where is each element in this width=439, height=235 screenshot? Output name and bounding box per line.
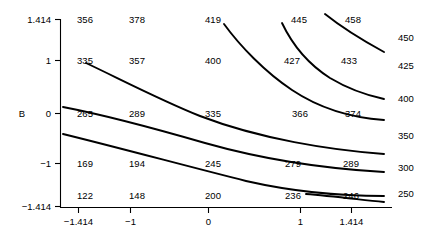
value-r1c2: 400 (205, 55, 221, 66)
contour-level-label-450: 450 (398, 32, 414, 43)
value-r2c3: 366 (292, 108, 308, 119)
value-r1c0: 335 (77, 55, 93, 66)
value-r4c1: 148 (129, 190, 145, 201)
x-tick-label-1: 1 (298, 216, 303, 227)
y-tick-label-1.414: 1.414 (27, 14, 51, 25)
value-r0c1: 378 (129, 14, 145, 25)
x-tick-label-0: 0 (206, 216, 211, 227)
y-tick-label-0: 0 (46, 108, 51, 119)
x-tick-labels: −1.414 −1 0 1 1.414 (64, 216, 364, 227)
contour-level-label-425: 425 (398, 60, 414, 71)
value-r3c3: 279 (285, 158, 301, 169)
contour-level-label-350: 350 (398, 130, 414, 141)
x-tick-label-minus-1.414: −1.414 (64, 216, 93, 227)
contour-plot-canvas: 1.414 1 0 −1 −1.414 −1.414 −1 0 1 1.414 … (0, 0, 439, 235)
x-tick-label-1.414: 1.414 (340, 216, 364, 227)
value-r3c1: 194 (129, 158, 145, 169)
y-tick-label-minus-1.414: −1.414 (22, 201, 51, 212)
value-r4c0: 122 (77, 190, 93, 201)
value-r0c4: 458 (345, 14, 361, 25)
contour-curves-group (63, 14, 384, 202)
value-r2c2: 335 (205, 108, 221, 119)
contour-curve-350 (63, 107, 384, 172)
contour-curve-300 (63, 134, 384, 196)
value-r4c3: 236 (285, 190, 301, 201)
value-r3c2: 245 (205, 158, 221, 169)
contour-level-labels: 450 425 400 350 300 250 (398, 32, 414, 199)
value-r1c4: 433 (341, 55, 357, 66)
y-tick-label-1: 1 (46, 55, 51, 66)
contour-level-label-400: 400 (398, 93, 414, 104)
y-axis-title: B (19, 108, 25, 119)
value-r3c4: 289 (343, 158, 359, 169)
y-tick-labels: 1.414 1 0 −1 −1.414 (22, 14, 51, 212)
value-r0c2: 419 (205, 14, 221, 25)
value-r3c0: 169 (77, 158, 93, 169)
grid-value-labels: 356 378 419 445 458 335 357 400 427 433 … (77, 14, 361, 201)
value-r2c4: 374 (345, 108, 361, 119)
x-tick-label-minus-1: −1 (125, 216, 136, 227)
y-tick-label-minus-1: −1 (40, 158, 51, 169)
contour-level-label-300: 300 (398, 162, 414, 173)
contour-level-label-250: 250 (398, 188, 414, 199)
value-r1c1: 357 (129, 55, 145, 66)
value-r4c4: 246 (343, 190, 359, 201)
value-r0c0: 356 (77, 14, 93, 25)
value-r2c0: 265 (77, 108, 93, 119)
contour-plot-figure: 1.414 1 0 −1 −1.414 −1.414 −1 0 1 1.414 … (0, 0, 439, 235)
value-r1c3: 427 (284, 55, 300, 66)
value-r4c2: 200 (205, 190, 221, 201)
value-r0c3: 445 (291, 14, 307, 25)
value-r2c1: 289 (129, 108, 145, 119)
